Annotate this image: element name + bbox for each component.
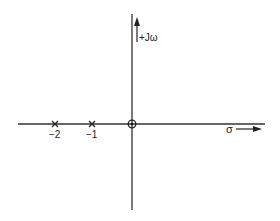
real-axis-label: σ xyxy=(226,123,233,135)
s-plane-diagram: +Jω σ −2 −1 xyxy=(0,0,280,221)
pole-label-minus-1: −1 xyxy=(86,129,98,140)
real-axis-arrow-icon xyxy=(236,126,262,132)
pole-label-minus-2: −2 xyxy=(49,129,61,140)
imaginary-axis-label: +Jω xyxy=(139,32,158,43)
